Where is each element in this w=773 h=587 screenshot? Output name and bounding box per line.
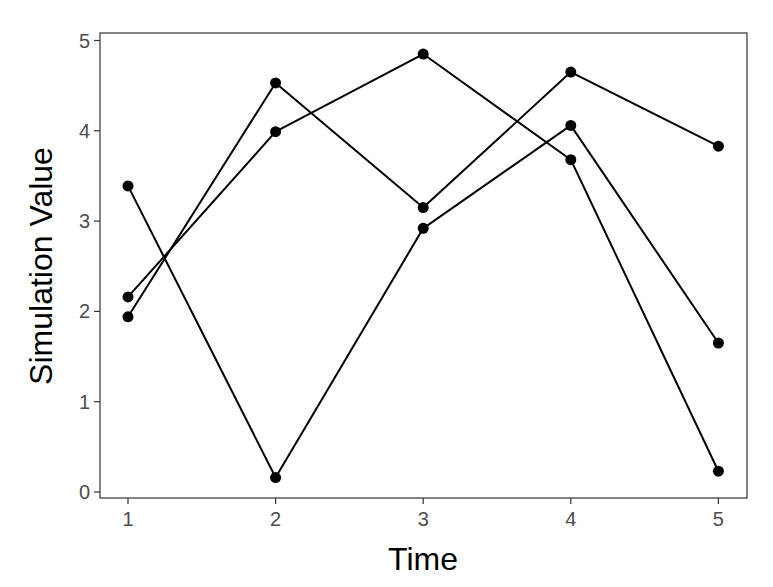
- y-tick-label: 4: [79, 120, 90, 142]
- y-tick-label: 2: [79, 300, 90, 322]
- data-point: [565, 67, 576, 78]
- data-point: [270, 472, 281, 483]
- x-axis-title: Time: [388, 541, 458, 577]
- x-tick-label: 1: [122, 508, 133, 530]
- x-tick-label: 3: [418, 508, 429, 530]
- y-axis-title: Simulation Value: [23, 147, 59, 385]
- data-point: [713, 466, 724, 477]
- x-tick-label: 4: [565, 508, 576, 530]
- x-tick-label: 5: [713, 508, 724, 530]
- x-tick-label: 2: [270, 508, 281, 530]
- data-point: [270, 77, 281, 88]
- plot-panel: [100, 33, 747, 498]
- line-chart: 012345 12345 Time Simulation Value: [0, 0, 773, 587]
- data-point: [565, 154, 576, 165]
- x-axis: 12345: [122, 498, 724, 530]
- data-point: [270, 126, 281, 137]
- data-point: [123, 311, 134, 322]
- data-point: [123, 291, 134, 302]
- data-point: [713, 338, 724, 349]
- data-point: [418, 202, 429, 213]
- panel-border: [100, 33, 747, 498]
- y-tick-label: 3: [79, 210, 90, 232]
- data-point: [565, 120, 576, 131]
- y-tick-label: 0: [79, 481, 90, 503]
- data-point: [418, 223, 429, 234]
- data-point: [418, 49, 429, 60]
- y-axis: 012345: [79, 30, 100, 504]
- data-point: [123, 180, 134, 191]
- y-tick-label: 1: [79, 391, 90, 413]
- data-point: [713, 141, 724, 152]
- y-tick-label: 5: [79, 30, 90, 52]
